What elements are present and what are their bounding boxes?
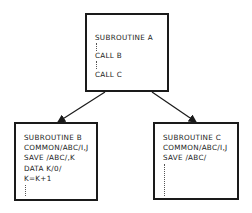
box-a-line-3: CALL C (95, 70, 122, 79)
box-b-line-2: COMMON/ABC/I,J (24, 143, 88, 152)
subroutine-b-box: SUBROUTINE B COMMON/ABC/I,J SAVE /ABC/,K… (14, 122, 98, 201)
subroutine-c-box: SUBROUTINE C COMMON/ABC/I,J SAVE /ABC/ (153, 122, 239, 200)
box-c-ellipsis (164, 164, 166, 196)
subroutine-a-box: SUBROUTINE A CALL B CALL C (85, 13, 169, 92)
box-c-line-1: SUBROUTINE C (163, 133, 221, 142)
arrow-a-to-b (58, 92, 105, 122)
box-b-line-1: SUBROUTINE B (24, 133, 82, 142)
box-b-line-5: K=K+1 (24, 174, 52, 183)
box-a-ellipsis-1 (96, 43, 98, 51)
box-b-ellipsis (25, 185, 27, 196)
box-a-line-2: CALL B (95, 51, 122, 60)
box-b-line-3: SAVE /ABC/,K (24, 153, 75, 162)
box-a-line-1: SUBROUTINE A (95, 33, 153, 42)
box-c-line-3: SAVE /ABC/ (163, 153, 206, 162)
box-c-line-2: COMMON/ABC/I,J (163, 143, 227, 152)
box-b-line-4: DATA K/0/ (24, 164, 62, 173)
box-a-ellipsis-2 (96, 61, 98, 69)
arrow-a-to-c (152, 92, 196, 122)
